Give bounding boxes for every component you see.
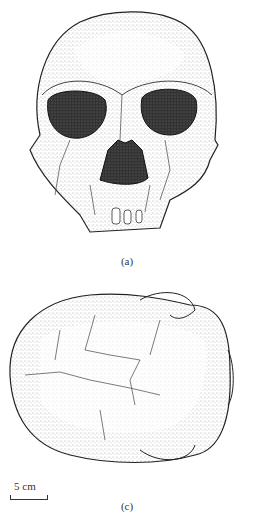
skull-superior-view-drawing: [0, 280, 254, 480]
panel-c-caption: (c): [0, 500, 254, 512]
skull-frontal-view-drawing: [0, 0, 254, 240]
panel-a-caption: (a): [0, 255, 254, 267]
scale-bar-label: 5 cm: [14, 480, 36, 492]
